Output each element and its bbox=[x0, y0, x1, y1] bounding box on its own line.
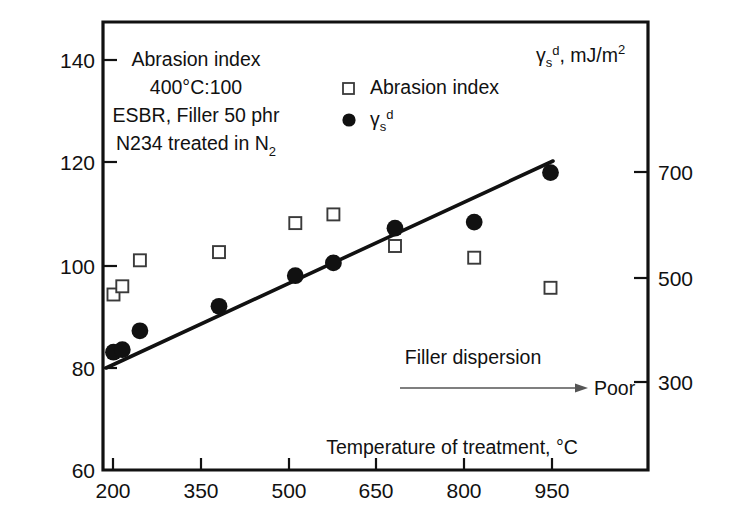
legend-gamma-base: γ bbox=[370, 108, 380, 130]
data-point-open-square bbox=[213, 246, 225, 258]
right-axis-title-sup2: 2 bbox=[618, 42, 625, 57]
legend-label-abrasion-index: Abrasion index bbox=[370, 76, 499, 98]
x-tick-label: 350 bbox=[183, 479, 218, 502]
y-tick-label: 80 bbox=[72, 357, 95, 380]
y-tick-label: 140 bbox=[60, 49, 95, 72]
data-point-open-square bbox=[116, 280, 128, 292]
conditions-line-4-text: N234 treated in N bbox=[116, 132, 269, 154]
y-tick-label: 100 bbox=[60, 255, 95, 278]
right-axis-title-gamma: γ bbox=[536, 44, 546, 66]
right-axis-title-sup: d bbox=[552, 43, 559, 58]
data-point-filled-circle bbox=[325, 255, 342, 272]
x-tick-label: 200 bbox=[95, 479, 130, 502]
data-point-open-square bbox=[289, 217, 301, 229]
filler-dispersion-label: Filler dispersion bbox=[405, 346, 542, 368]
data-point-open-square bbox=[134, 254, 146, 266]
legend-marker-filled-circle-icon bbox=[342, 113, 355, 126]
x-tick-label: 950 bbox=[534, 479, 569, 502]
data-point-filled-circle bbox=[466, 214, 483, 231]
data-point-filled-circle bbox=[211, 298, 228, 315]
data-point-open-square bbox=[468, 252, 480, 264]
conditions-line-2: 400°C:100 bbox=[150, 76, 243, 98]
y-tick-label: 60 bbox=[72, 459, 95, 482]
x-tick-label: 500 bbox=[271, 479, 306, 502]
x-axis-title: Temperature of treatment, °C bbox=[326, 436, 578, 458]
y-right-tick-label: 500 bbox=[658, 267, 693, 290]
data-point-filled-circle bbox=[114, 341, 131, 358]
right-axis-title-rest: , mJ/m bbox=[559, 44, 618, 66]
legend-gamma-sup: d bbox=[386, 107, 393, 122]
conditions-line-4-sub: 2 bbox=[269, 144, 276, 159]
y-right-tick-label: 700 bbox=[658, 161, 693, 184]
chart-svg: 140 120 100 80 60 700 500 300 200 bbox=[0, 0, 736, 532]
conditions-textbox: Abrasion index 400°C:100 ESBR, Filler 50… bbox=[113, 48, 280, 159]
data-point-open-square bbox=[327, 208, 339, 220]
data-point-filled-circle bbox=[287, 267, 304, 284]
data-point-filled-circle bbox=[542, 164, 559, 181]
conditions-line-1: Abrasion index bbox=[132, 48, 261, 70]
chart-figure: 140 120 100 80 60 700 500 300 200 bbox=[0, 0, 736, 532]
data-point-filled-circle bbox=[387, 220, 404, 237]
x-tick-label: 800 bbox=[446, 479, 481, 502]
data-point-open-square bbox=[545, 282, 557, 294]
conditions-line-3: ESBR, Filler 50 phr bbox=[113, 104, 280, 126]
y-right-tick-label: 300 bbox=[658, 371, 693, 394]
data-point-filled-circle bbox=[132, 322, 149, 339]
x-tick-label: 650 bbox=[358, 479, 393, 502]
y-tick-label: 120 bbox=[60, 151, 95, 174]
data-point-open-square bbox=[389, 240, 401, 252]
legend-marker-open-square-icon bbox=[343, 83, 354, 94]
filler-dispersion-end-label: Poor bbox=[594, 377, 636, 399]
